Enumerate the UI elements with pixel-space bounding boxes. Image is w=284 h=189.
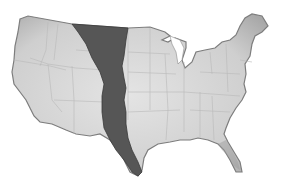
us-map — [0, 0, 284, 189]
map-container — [0, 0, 284, 189]
